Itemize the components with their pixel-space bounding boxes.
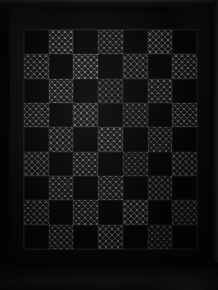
quilt-patch-solid-r9c7 xyxy=(172,225,197,249)
quilt-patch-print-r8c1 xyxy=(24,200,49,224)
quilt-patch-solid-r5c5 xyxy=(123,127,148,151)
quilt-patch-print-r4c5 xyxy=(123,103,148,127)
quilt-patch-print-r1c2 xyxy=(49,30,74,54)
quilt-patch-solid-r1c7 xyxy=(172,30,197,54)
quilt-patch-print-r4c3 xyxy=(73,103,98,127)
quilt-patch-solid-r9c5 xyxy=(123,225,148,249)
backdrop-corner-glow xyxy=(150,270,218,290)
quilt-patch-print-r2c1 xyxy=(24,54,49,78)
quilt-patch-print-r9c4 xyxy=(98,225,123,249)
quilt-patch-solid-r4c6 xyxy=(148,103,173,127)
backdrop-right-highlight xyxy=(213,0,218,262)
quilt-patch-solid-r6c4 xyxy=(98,152,123,176)
backdrop-top-highlight xyxy=(0,0,218,4)
quilt-patch-solid-r6c6 xyxy=(148,152,173,176)
quilt-patch-print-r9c6 xyxy=(148,225,173,249)
quilt-patch-solid-r4c4 xyxy=(98,103,123,127)
quilt-patch-print-r3c2 xyxy=(49,79,74,103)
quilt-patch-solid-r3c7 xyxy=(172,79,197,103)
quilt-patch-print-r6c1 xyxy=(24,152,49,176)
quilt-patch-print-r1c4 xyxy=(98,30,123,54)
quilt-patch-print-r2c7 xyxy=(172,54,197,78)
quilt-patch-solid-r5c7 xyxy=(172,127,197,151)
quilt-patch-solid-r7c3 xyxy=(73,176,98,200)
quilt-patch-solid-r4c2 xyxy=(49,103,74,127)
quilt-patch-print-r3c6 xyxy=(148,79,173,103)
quilt-patch-solid-r8c2 xyxy=(49,200,74,224)
quilt-patch-solid-r9c3 xyxy=(73,225,98,249)
quilt-patch-solid-r5c1 xyxy=(24,127,49,151)
patchwork-grid xyxy=(24,30,197,249)
quilt xyxy=(9,7,209,263)
quilt-patch-print-r5c2 xyxy=(49,127,74,151)
quilt-patch-solid-r8c4 xyxy=(98,200,123,224)
quilt-patch-solid-r6c2 xyxy=(49,152,74,176)
quilt-patch-print-r1c6 xyxy=(148,30,173,54)
quilt-patch-print-r7c2 xyxy=(49,176,74,200)
quilt-patch-solid-r3c1 xyxy=(24,79,49,103)
quilt-patch-print-r6c3 xyxy=(73,152,98,176)
quilt-patch-solid-r9c1 xyxy=(24,225,49,249)
quilt-patch-print-r8c3 xyxy=(73,200,98,224)
quilt-patch-solid-r7c5 xyxy=(123,176,148,200)
quilt-patch-print-r9c2 xyxy=(49,225,74,249)
quilt-patch-solid-r7c1 xyxy=(24,176,49,200)
quilt-patch-print-r7c4 xyxy=(98,176,123,200)
quilt-patch-solid-r3c5 xyxy=(123,79,148,103)
quilt-patch-solid-r7c7 xyxy=(172,176,197,200)
quilt-patch-solid-r1c5 xyxy=(123,30,148,54)
quilt-patch-print-r2c5 xyxy=(123,54,148,78)
quilt-patch-solid-r2c6 xyxy=(148,54,173,78)
quilt-patch-solid-r5c3 xyxy=(73,127,98,151)
quilt-patch-print-r7c6 xyxy=(148,176,173,200)
quilt-patch-print-r4c1 xyxy=(24,103,49,127)
quilt-patch-solid-r2c4 xyxy=(98,54,123,78)
quilt-patch-print-r5c4 xyxy=(98,127,123,151)
quilt-patch-print-r6c7 xyxy=(172,152,197,176)
quilt-patch-solid-r1c3 xyxy=(73,30,98,54)
quilt-patch-solid-r3c3 xyxy=(73,79,98,103)
quilt-photograph xyxy=(0,0,218,290)
quilt-patch-print-r8c5 xyxy=(123,200,148,224)
quilt-patch-solid-r8c6 xyxy=(148,200,173,224)
quilt-patch-print-r3c4 xyxy=(98,79,123,103)
quilt-patch-solid-r2c2 xyxy=(49,54,74,78)
quilt-patch-print-r4c7 xyxy=(172,103,197,127)
quilt-patch-print-r8c7 xyxy=(172,200,197,224)
quilt-patch-solid-r1c1 xyxy=(24,30,49,54)
quilt-patch-print-r6c5 xyxy=(123,152,148,176)
quilt-patch-print-r5c6 xyxy=(148,127,173,151)
quilt-patch-print-r2c3 xyxy=(73,54,98,78)
